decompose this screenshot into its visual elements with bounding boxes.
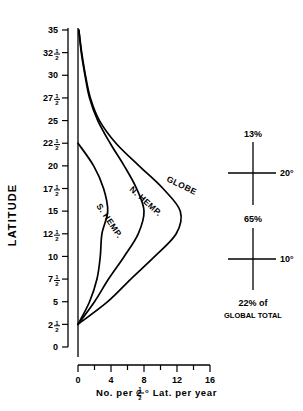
svg-text:2: 2: [55, 55, 59, 61]
annotation-global-total-label: GLOBAL TOTAL: [224, 311, 282, 320]
svg-text:1: 1: [55, 48, 59, 54]
annotation-top-band-label: 20°: [280, 168, 294, 178]
svg-text:32: 32: [43, 48, 53, 58]
curve-label-s-hemp: S. HEMP.: [94, 202, 124, 240]
data-curves: [78, 30, 181, 324]
svg-text:1: 1: [55, 229, 59, 235]
svg-text:22: 22: [43, 138, 53, 148]
x-tick-label: 8: [141, 375, 146, 385]
y-tick-label: 25: [48, 116, 58, 126]
y-tick-label: 2712: [43, 93, 60, 106]
svg-text:25: 25: [48, 116, 58, 126]
svg-text:10: 10: [48, 252, 58, 262]
y-axis-tick-labels: 0212571210121215171220221225271230321235: [43, 25, 60, 352]
x-tick-label: 4: [108, 375, 113, 385]
svg-text:20: 20: [48, 161, 58, 171]
svg-text:2: 2: [55, 327, 59, 333]
y-tick-label: 212: [48, 320, 60, 333]
y-tick-label: 3212: [43, 48, 60, 61]
curve-label-n-hemp: N. HEMP.: [128, 184, 164, 218]
svg-text:0: 0: [53, 342, 58, 352]
x-tick-label: 12: [172, 375, 182, 385]
svg-text:35: 35: [48, 25, 58, 35]
svg-text:1: 1: [55, 320, 59, 326]
svg-text:2: 2: [55, 100, 59, 106]
annotation-panel: 13% 20° 65% 10° 22% of GLOBAL TOTAL: [224, 129, 294, 320]
x-axis-title-post: ° Lat. per year: [145, 387, 217, 398]
svg-text:30: 30: [48, 70, 58, 80]
x-tick-label: 16: [205, 375, 215, 385]
x-tick-label: 0: [75, 375, 80, 385]
y-tick-label: 0: [53, 342, 58, 352]
y-tick-label: 5: [53, 297, 58, 307]
svg-text:17: 17: [43, 184, 53, 194]
annotation-top-percent: 13%: [244, 129, 262, 139]
svg-text:15: 15: [48, 206, 58, 216]
curve-label-globe: GLOBE: [165, 174, 198, 197]
x-axis-tick-labels: 0481216: [75, 375, 215, 385]
y-tick-label: 20: [48, 161, 58, 171]
y-tick-label: 15: [48, 206, 58, 216]
annotation-middle-percent: 65%: [244, 214, 262, 224]
y-tick-label: 10: [48, 252, 58, 262]
svg-text:2: 2: [55, 236, 59, 242]
svg-text:2: 2: [55, 145, 59, 151]
y-axis-ticks: [62, 30, 68, 347]
x-axis-ticks: [78, 365, 210, 372]
latitude-distribution-chart: 0212571210121215171220221225271230321235…: [0, 0, 303, 411]
y-tick-label: 30: [48, 70, 58, 80]
annotation-bottom-percent: 22% of: [238, 298, 268, 308]
x-axis: 0481216 No. per 2 1 2 ° Lat. per year: [75, 365, 216, 401]
svg-text:27: 27: [43, 93, 53, 103]
y-tick-label: 2212: [43, 138, 60, 151]
y-tick-label: 712: [48, 274, 60, 287]
y-tick-label: 1212: [43, 229, 60, 242]
svg-text:1: 1: [55, 93, 59, 99]
svg-text:1: 1: [55, 138, 59, 144]
y-axis-title: LATITUDE: [6, 184, 18, 246]
svg-text:2: 2: [55, 281, 59, 287]
svg-text:1: 1: [55, 184, 59, 190]
y-tick-label: 1712: [43, 184, 60, 197]
svg-text:7: 7: [48, 274, 53, 284]
y-tick-label: 35: [48, 25, 58, 35]
x-axis-title-pre: No. per 2: [96, 387, 142, 398]
annotation-bottom-band-label: 10°: [280, 254, 294, 264]
curve-globe: [78, 30, 181, 324]
x-axis-title: No. per 2 1 2 ° Lat. per year: [96, 386, 217, 401]
curve-n-hemp: [78, 30, 144, 324]
curve-s-hemp: [78, 143, 108, 324]
y-axis: 0212571210121215171220221225271230321235…: [6, 25, 68, 352]
svg-text:1: 1: [55, 274, 59, 280]
svg-text:12: 12: [43, 229, 53, 239]
svg-text:2: 2: [55, 191, 59, 197]
svg-text:2: 2: [48, 320, 53, 330]
svg-text:5: 5: [53, 297, 58, 307]
